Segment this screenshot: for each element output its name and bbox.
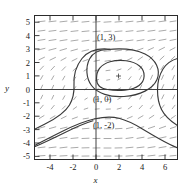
y-tick-label-m2: -2 [13, 112, 30, 121]
y-tick-label-2: 2 [16, 59, 30, 68]
y-tick-label-5: 5 [16, 18, 30, 27]
y-tick-label-m4: -4 [13, 139, 30, 148]
y-tick-label-m5: -5 [13, 152, 30, 161]
annotation-point-1-3: (1, 3) [97, 33, 115, 42]
y-tick-label-m3: -3 [13, 126, 30, 135]
y-tick-label-1: 1 [16, 72, 30, 81]
annotation-point-1-0: (1, 0) [93, 95, 111, 104]
y-tick-label-m1: -1 [13, 99, 30, 108]
x-tick-label-6: 6 [158, 163, 172, 172]
y-tick-label-3: 3 [16, 45, 30, 54]
x-axis-title: x [94, 176, 98, 185]
x-tick-label-0: 0 [89, 163, 103, 172]
y-tick-label-4: 4 [16, 32, 30, 41]
annotation-point-1-minus-2: (1, -2) [93, 121, 114, 130]
y-axis-title: y [5, 84, 9, 93]
x-tick-label-4: 4 [135, 163, 149, 172]
y-tick-label-0: 0 [16, 86, 30, 95]
x-tick-label-m4: -4 [43, 163, 57, 172]
x-tick-label-2: 2 [112, 163, 126, 172]
x-tick-label-m2: -2 [66, 163, 80, 172]
